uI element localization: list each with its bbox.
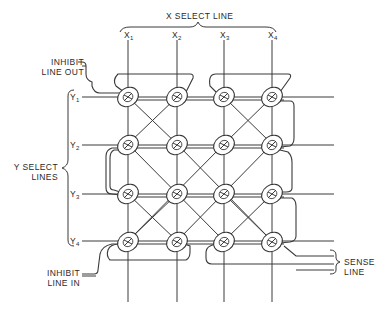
sense-line1: SENSE (344, 257, 375, 267)
x4-label: X4 (268, 30, 278, 41)
y2-label: Y2 (70, 140, 80, 151)
core-r4c1 (114, 228, 142, 255)
y1-sub: 1 (76, 97, 80, 103)
x-select-brace (120, 22, 276, 32)
sense-line-label: SENSE LINE (344, 257, 375, 277)
sense-diagonals (128, 97, 272, 241)
y-select-brace (62, 90, 74, 246)
y-select-line1: Y SELECT (6, 162, 58, 172)
y3-sub: 3 (76, 194, 80, 200)
inhibit-in-line2: LINE IN (40, 278, 80, 288)
y3-label: Y3 (70, 189, 80, 200)
inhibit-out-line1: INHIBIT (40, 57, 84, 67)
y2-sub: 2 (76, 145, 80, 151)
y1-label: Y1 (70, 92, 80, 103)
inhibit-in-line1: INHIBIT (40, 268, 80, 278)
y-select-label: Y SELECT LINES (6, 162, 58, 182)
inhibit-out-line2: LINE OUT (40, 67, 84, 77)
x2-label: X2 (172, 30, 182, 41)
core-r4c3 (210, 228, 238, 255)
y4-label: Y4 (70, 236, 80, 247)
y4-sub: 4 (76, 241, 80, 247)
x1-sub: 1 (130, 35, 134, 41)
sense-line2: LINE (344, 267, 375, 277)
inhibit-in-label: INHIBIT LINE IN (40, 268, 80, 288)
x3-label: X3 (220, 30, 230, 41)
core-r4c4 (258, 228, 286, 255)
x-select-title: X SELECT LINE (166, 11, 233, 21)
x4-sub: 4 (274, 35, 278, 41)
x2-sub: 2 (178, 35, 182, 41)
x1-label: X1 (124, 30, 134, 41)
inhibit-out-label: INHIBIT LINE OUT (40, 57, 84, 77)
inhibit-line (78, 62, 334, 274)
core-r4c2 (163, 228, 191, 255)
x3-sub: 3 (226, 35, 230, 41)
x-select-lines (128, 40, 272, 302)
y-select-line2: LINES (6, 172, 58, 182)
